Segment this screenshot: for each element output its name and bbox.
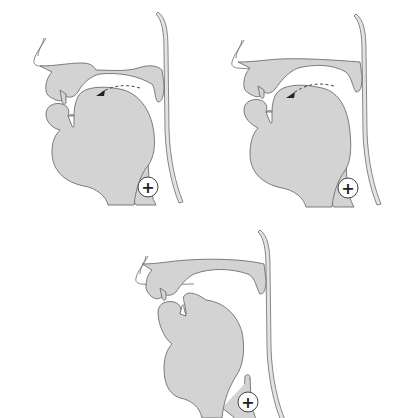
svg-text:+: +	[341, 179, 354, 198]
glottis-plus-marker: +	[238, 392, 258, 412]
svg-text:+: +	[141, 178, 154, 197]
glottis-plus-marker: +	[138, 177, 158, 197]
glottis-plus-marker: +	[338, 178, 358, 198]
vocal-tract-diagram-3: +	[118, 228, 293, 418]
vocal-tract-panel-1: +	[16, 10, 191, 210]
vocal-tract-panel-3: +	[118, 228, 293, 418]
tongue-lower-jaw	[244, 85, 351, 207]
vocal-tract-diagram-2: +	[214, 12, 389, 212]
svg-text:+: +	[241, 393, 254, 412]
vocal-tract-panel-2: +	[214, 12, 389, 212]
vocal-tract-diagram-1: +	[16, 10, 191, 210]
